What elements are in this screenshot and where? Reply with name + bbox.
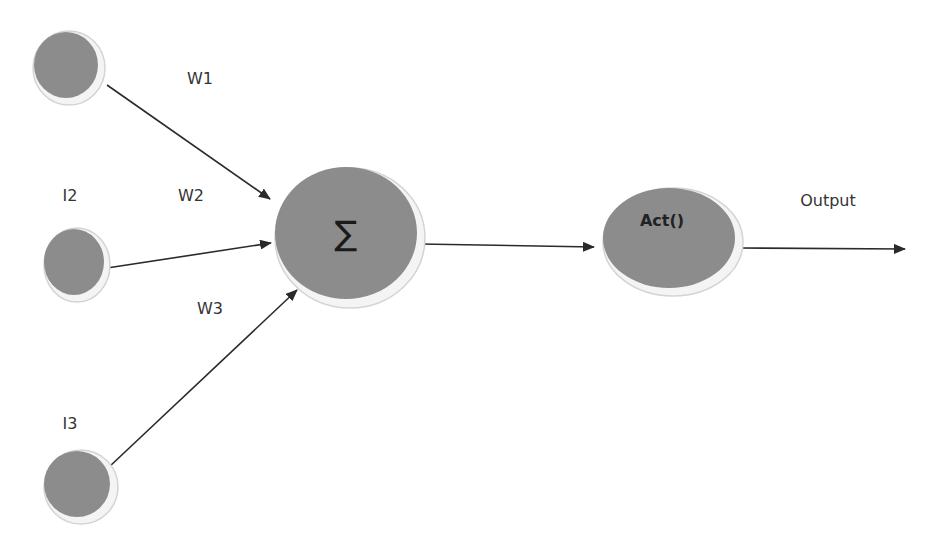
summation-node: ∑: [275, 167, 425, 308]
input-label-2: I2: [63, 186, 78, 205]
input-node-3: [44, 450, 118, 524]
output-label: Output: [800, 191, 856, 210]
input-node-1: [33, 31, 105, 105]
activation-label: Act(): [640, 211, 684, 230]
weight-label-1: W1: [187, 69, 213, 88]
neuron-diagram: ∑ Act() I2 I3 W1 W2 W3 Output: [0, 0, 928, 556]
input-label-3: I3: [63, 414, 78, 433]
edge-i1-to-sum: [107, 85, 270, 199]
input-node-2: [44, 228, 110, 302]
edge-i2-to-sum: [107, 243, 271, 268]
edge-sum-to-act: [420, 244, 594, 247]
weight-label-2: W2: [178, 186, 204, 205]
summation-label: ∑: [335, 213, 358, 253]
edge-act-to-output: [740, 248, 905, 249]
activation-node: Act(): [603, 188, 743, 296]
weight-label-3: W3: [197, 299, 223, 318]
